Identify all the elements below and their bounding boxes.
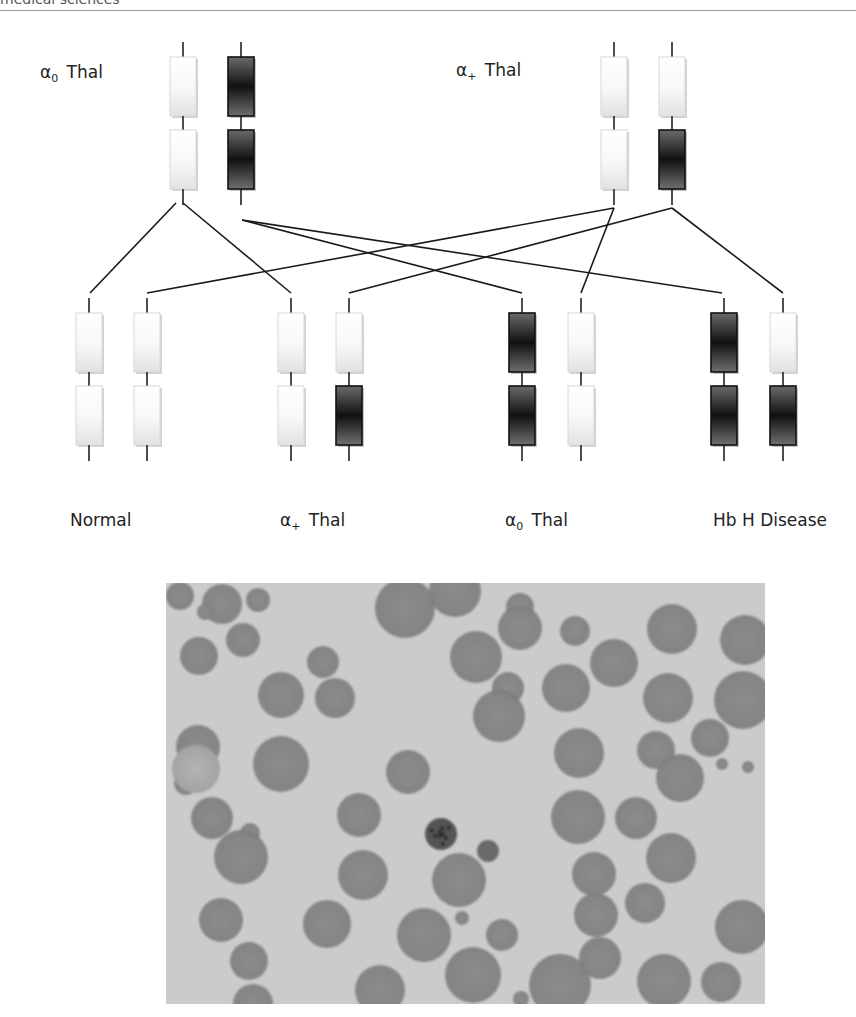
label-subscript: 0 bbox=[51, 72, 58, 85]
inheritance-diagram bbox=[0, 0, 856, 580]
chromosome bbox=[134, 298, 162, 461]
label-tail: Thal bbox=[303, 510, 345, 530]
normal-gene-block bbox=[568, 313, 594, 372]
red-blood-cell bbox=[230, 942, 268, 980]
label-subscript: + bbox=[467, 70, 476, 83]
deleted-gene-block bbox=[770, 386, 796, 445]
normal-gene-block bbox=[659, 57, 685, 116]
red-blood-cell bbox=[473, 690, 525, 742]
inheritance-line bbox=[183, 203, 291, 293]
chromosome bbox=[659, 42, 687, 205]
inheritance-line bbox=[349, 208, 672, 293]
label-tail: Thal bbox=[526, 510, 568, 530]
red-blood-cell bbox=[432, 853, 486, 907]
deleted-gene-block bbox=[711, 313, 737, 372]
offspring-genotype-label: Hb H Disease bbox=[713, 510, 827, 530]
offspring-genotype-label: α+ Thal bbox=[280, 510, 345, 530]
red-blood-cell bbox=[197, 604, 213, 620]
label-main: Hb H Disease bbox=[713, 510, 827, 530]
red-blood-cell bbox=[551, 790, 605, 844]
normal-gene-block bbox=[278, 386, 304, 445]
red-blood-cell bbox=[253, 736, 309, 792]
deleted-gene-block bbox=[336, 386, 362, 445]
chromosome bbox=[76, 298, 104, 461]
red-blood-cell bbox=[258, 672, 304, 718]
normal-gene-block bbox=[601, 130, 627, 189]
red-blood-cell bbox=[191, 797, 233, 839]
ghost-cell bbox=[172, 745, 220, 793]
chromosome bbox=[770, 298, 798, 461]
label-main: α bbox=[505, 510, 516, 530]
chromosome bbox=[336, 298, 364, 461]
deleted-gene-block bbox=[509, 386, 535, 445]
red-blood-cell bbox=[486, 919, 518, 951]
red-blood-cell bbox=[180, 637, 218, 675]
chromosome bbox=[568, 298, 596, 461]
inheritance-line bbox=[672, 208, 783, 293]
red-blood-cell bbox=[742, 761, 754, 773]
normal-gene-block bbox=[336, 313, 362, 372]
inheritance-line bbox=[581, 208, 614, 293]
red-blood-cell bbox=[337, 793, 381, 837]
label-main: α bbox=[280, 510, 291, 530]
label-main: Normal bbox=[70, 510, 132, 530]
red-blood-cell bbox=[574, 893, 618, 937]
normal-gene-block bbox=[601, 57, 627, 116]
red-blood-cell bbox=[166, 583, 194, 610]
red-blood-cell bbox=[450, 631, 502, 683]
deleted-gene-block bbox=[659, 130, 685, 189]
normal-gene-block bbox=[134, 313, 160, 372]
inheritance-line bbox=[90, 203, 176, 293]
red-blood-cell bbox=[445, 947, 501, 1003]
red-blood-cell bbox=[701, 962, 741, 1002]
offspring-genotype-label: Normal bbox=[70, 510, 132, 530]
label-tail: Thal bbox=[479, 60, 521, 80]
normal-gene-block bbox=[568, 386, 594, 445]
red-blood-cell bbox=[572, 852, 616, 896]
deleted-gene-block bbox=[228, 57, 254, 116]
chromosome bbox=[601, 42, 629, 205]
deleted-gene-block bbox=[228, 130, 254, 189]
red-blood-cell bbox=[226, 623, 260, 657]
normal-gene-block bbox=[170, 130, 196, 189]
red-blood-cell bbox=[307, 646, 339, 678]
red-blood-cell bbox=[455, 911, 469, 925]
normal-gene-block bbox=[76, 386, 102, 445]
offspring-genotype-label: α0 Thal bbox=[505, 510, 568, 530]
chromosome bbox=[711, 298, 739, 461]
parent-genotype-label: α0 Thal bbox=[40, 62, 103, 82]
red-blood-cell bbox=[386, 750, 430, 794]
chromosome bbox=[228, 42, 256, 205]
normal-gene-block bbox=[170, 57, 196, 116]
red-blood-cell bbox=[315, 678, 355, 718]
red-blood-cell bbox=[397, 908, 451, 962]
red-blood-cell bbox=[214, 830, 268, 884]
chromosomes bbox=[76, 42, 798, 461]
chromosome bbox=[278, 298, 306, 461]
normal-gene-block bbox=[770, 313, 796, 372]
red-blood-cell bbox=[554, 728, 604, 778]
chromosome bbox=[170, 42, 198, 205]
red-blood-cell bbox=[615, 797, 657, 839]
red-blood-cell bbox=[691, 719, 729, 757]
label-subscript: + bbox=[291, 520, 300, 533]
red-blood-cell bbox=[625, 883, 665, 923]
deleted-gene-block bbox=[509, 313, 535, 372]
red-blood-cell bbox=[716, 758, 728, 770]
red-blood-cell bbox=[646, 833, 696, 883]
red-blood-cell bbox=[643, 673, 693, 723]
normal-gene-block bbox=[76, 313, 102, 372]
chromosome bbox=[509, 298, 537, 461]
parent-genotype-label: α+ Thal bbox=[456, 60, 521, 80]
blood-smear-micrograph bbox=[166, 583, 765, 1004]
label-main: α bbox=[40, 62, 51, 82]
red-blood-cell bbox=[590, 639, 638, 687]
red-blood-cell bbox=[656, 754, 704, 802]
red-blood-cell bbox=[246, 588, 270, 612]
inheritance-line bbox=[147, 208, 614, 293]
inheritance-lines bbox=[90, 203, 783, 293]
red-blood-cell bbox=[303, 900, 351, 948]
small-dark-cell bbox=[477, 840, 499, 862]
label-main: α bbox=[456, 60, 467, 80]
red-blood-cell bbox=[647, 604, 697, 654]
